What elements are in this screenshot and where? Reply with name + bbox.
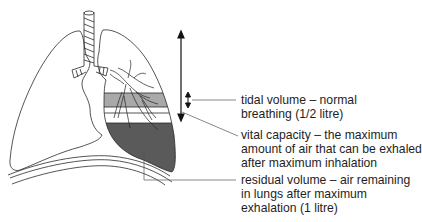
tidal-volume-arrow xyxy=(186,92,191,108)
left-lung xyxy=(10,31,102,171)
residual-volume-region xyxy=(95,123,185,183)
residual-volume-label: residual volume – air remaining in lungs… xyxy=(241,173,410,215)
residual-volume-line-2: in lungs after maximum xyxy=(241,187,410,201)
vital-capacity-arrow xyxy=(178,31,184,121)
vital-capacity-line-2: amount of air that can be exhaled xyxy=(241,142,422,156)
residual-volume-line-3: exhalation (1 litre) xyxy=(241,201,410,215)
vital-capacity-label: vital capacity – the maximum amount of a… xyxy=(241,128,422,170)
vital-capacity-line-3: after maximum inhalation xyxy=(241,156,422,170)
tidal-volume-label: tidal volume – normal breathing (1/2 lit… xyxy=(241,93,357,121)
tidal-volume-line-2: breathing (1/2 litre) xyxy=(241,107,357,121)
vital-capacity-line-1: vital capacity – the maximum xyxy=(241,128,422,142)
residual-volume-line-1: residual volume – air remaining xyxy=(241,173,410,187)
trachea xyxy=(72,11,108,78)
tidal-volume-line-1: tidal volume – normal xyxy=(241,93,357,107)
